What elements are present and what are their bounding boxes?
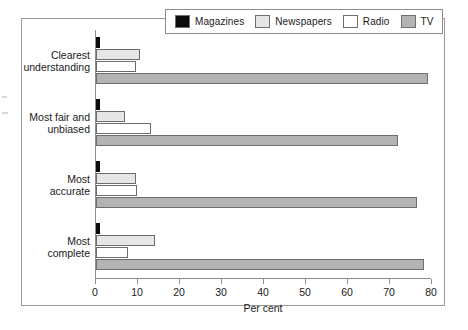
bar-group: Mostaccurate: [96, 154, 431, 216]
page-artifact-mark: [2, 96, 7, 98]
bar-tv: [96, 73, 428, 84]
x-tick-label: 40: [248, 286, 278, 298]
x-tick-label: 30: [206, 286, 236, 298]
x-tick: [305, 279, 306, 284]
x-tick: [95, 279, 96, 284]
x-tick-label: 10: [122, 286, 152, 298]
chart-legend: Magazines Newspapers Radio TV: [165, 9, 443, 34]
x-tick-label: 80: [416, 286, 446, 298]
bar-newspapers: [96, 111, 125, 122]
plot-area: ClearestunderstandingMost fair andunbias…: [95, 30, 431, 278]
x-tick-label: 0: [80, 286, 110, 298]
bar-tv: [96, 135, 398, 146]
bar-radio: [96, 61, 136, 72]
category-label: Mostaccurate: [0, 173, 90, 197]
bar-radio: [96, 185, 137, 196]
legend-label-tv: TV: [421, 16, 434, 27]
bar-group: Mostcomplete: [96, 216, 431, 278]
x-tick: [263, 279, 264, 284]
x-tick: [221, 279, 222, 284]
legend-swatch-radio: [343, 15, 358, 28]
legend-entry-magazines: Magazines: [175, 15, 244, 28]
bar-magazines: [96, 37, 100, 48]
category-label: Mostcomplete: [0, 235, 90, 259]
legend-label-radio: Radio: [363, 16, 390, 27]
legend-label-newspapers: Newspapers: [275, 16, 332, 27]
bar-magazines: [96, 223, 100, 234]
x-axis-label: Per cent: [95, 302, 431, 314]
x-tick-label: 20: [164, 286, 194, 298]
x-tick: [179, 279, 180, 284]
category-label: Clearestunderstanding: [0, 49, 90, 73]
bar-newspapers: [96, 173, 136, 184]
figure: Magazines Newspapers Radio TV Clearestun…: [0, 0, 468, 330]
x-tick: [347, 279, 348, 284]
legend-entry-newspapers: Newspapers: [255, 15, 332, 28]
x-tick: [137, 279, 138, 284]
bar-group: Clearestunderstanding: [96, 30, 431, 92]
bar-radio: [96, 123, 151, 134]
legend-swatch-tv: [401, 15, 416, 28]
x-tick: [431, 279, 432, 284]
bar-group: Most fair andunbiased: [96, 92, 431, 154]
x-tick-label: 60: [332, 286, 362, 298]
x-tick-label: 70: [374, 286, 404, 298]
bar-magazines: [96, 161, 100, 172]
legend-entry-radio: Radio: [343, 15, 390, 28]
legend-swatch-magazines: [175, 15, 190, 28]
legend-entry-tv: TV: [401, 15, 434, 28]
legend-label-magazines: Magazines: [195, 16, 244, 27]
bar-newspapers: [96, 49, 140, 60]
bar-tv: [96, 197, 417, 208]
bar-magazines: [96, 99, 100, 110]
bar-radio: [96, 247, 128, 258]
category-label: Most fair andunbiased: [0, 111, 90, 135]
legend-swatch-newspapers: [255, 15, 270, 28]
x-tick-label: 50: [290, 286, 320, 298]
bar-newspapers: [96, 235, 155, 246]
x-tick: [389, 279, 390, 284]
bar-tv: [96, 259, 424, 270]
